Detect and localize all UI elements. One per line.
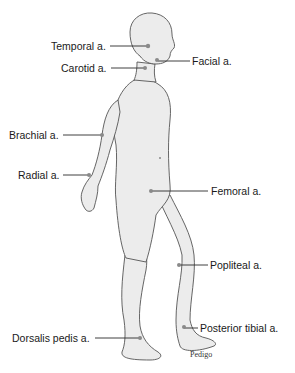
pulse-points-diagram: Temporal a. Carotid a. Facial a. Brachia… [0,0,295,373]
carotid-pulse-dot [143,66,147,70]
torso [113,78,170,262]
neck [134,62,156,82]
popliteal-pulse-dot [177,263,181,267]
dorsalis-pedis-artery-label: Dorsalis pedis a. [12,332,90,344]
arm [81,100,120,211]
popliteal-artery-label: Popliteal a. [210,259,262,271]
navel-mark [159,157,161,159]
radial-pulse-dot [87,173,91,177]
posterior-tibial-artery-label: Posterior tibial a. [200,322,278,334]
carotid-artery-label: Carotid a. [61,62,107,74]
femoral-artery-label: Femoral a. [211,185,261,197]
facial-artery-label: Facial a. [192,55,232,67]
femoral-pulse-dot [149,189,153,193]
dorsalis-pedis-pulse-dot [138,336,142,340]
brachial-pulse-dot [100,133,104,137]
radial-artery-label: Radial a. [18,169,59,181]
back-leg [122,248,161,360]
facial-pulse-dot [155,58,159,62]
head [130,13,175,64]
illustrator-credit: Pedigo [190,350,212,359]
temporal-pulse-dot [146,44,150,48]
posterior-tibial-pulse-dot [182,325,186,329]
temporal-artery-label: Temporal a. [51,40,106,52]
brachial-artery-label: Brachial a. [9,129,59,141]
